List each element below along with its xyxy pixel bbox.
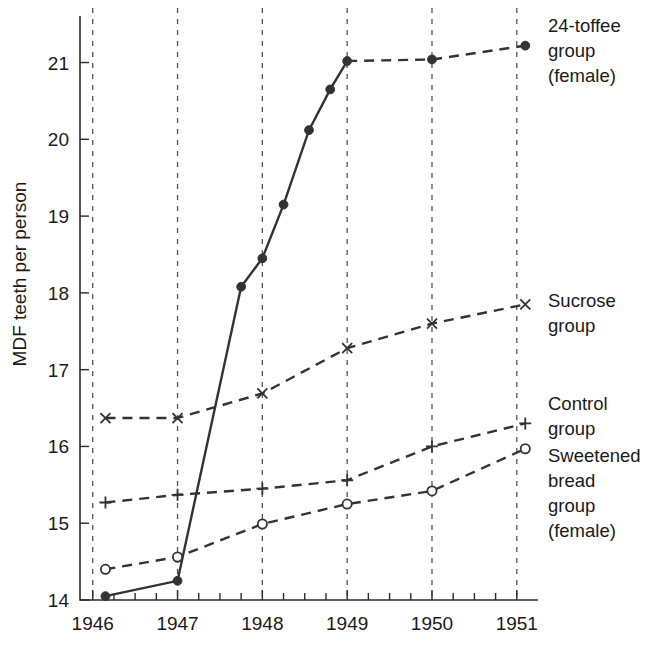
data-point-marker xyxy=(428,55,437,64)
y-axis-title-group: MDF teeth per person xyxy=(9,182,30,367)
y-tick-label-19: 19 xyxy=(48,206,69,227)
data-point-marker xyxy=(305,126,314,135)
data-point-marker xyxy=(521,444,530,453)
data-point-marker xyxy=(427,486,436,495)
legend-label-line: (female) xyxy=(548,520,616,541)
legend-label-line: group xyxy=(548,418,595,439)
data-point-marker xyxy=(99,496,111,508)
y-tick-label-14: 14 xyxy=(48,590,70,611)
data-point-marker xyxy=(343,57,352,66)
data-point-marker xyxy=(256,483,268,495)
x-tick-label-1949: 1949 xyxy=(326,613,368,634)
legend-entry-3: Sweetenedbreadgroup(female) xyxy=(548,445,641,541)
data-point-marker xyxy=(173,552,182,561)
data-point-marker xyxy=(520,299,530,309)
y-tick-label-21: 21 xyxy=(48,53,69,74)
data-point-marker xyxy=(173,576,182,585)
legend-label-line: group xyxy=(548,40,595,61)
legend-entry-2: Controlgroup xyxy=(548,393,608,439)
tick-marks-group xyxy=(80,63,517,600)
data-point-marker xyxy=(279,200,288,209)
data-point-marker xyxy=(521,41,530,50)
data-series-group xyxy=(99,41,531,600)
gridlines-group xyxy=(93,8,517,600)
series-line-solid-0 xyxy=(105,61,347,596)
x-tick-label-1951: 1951 xyxy=(496,613,538,634)
data-point-marker xyxy=(341,474,353,486)
x-tick-label-1946: 1946 xyxy=(72,613,114,634)
legend-label-line: bread xyxy=(548,470,595,491)
data-point-marker xyxy=(426,440,438,452)
data-point-marker xyxy=(519,417,531,429)
legend-label-line: group xyxy=(548,495,595,516)
data-point-marker xyxy=(258,254,267,263)
legend-label-line: (female) xyxy=(548,65,616,86)
y-tick-label-20: 20 xyxy=(48,129,69,150)
data-point-marker xyxy=(101,565,110,574)
line-chart: 1415161718192021194619471948194919501951… xyxy=(0,0,659,646)
x-tick-label-1950: 1950 xyxy=(411,613,453,634)
series-2 xyxy=(99,417,531,508)
legend-group: 24-toffeegroup(female)SucrosegroupContro… xyxy=(548,15,641,541)
chart-page: 1415161718192021194619471948194919501951… xyxy=(0,0,659,646)
series-0 xyxy=(101,41,530,600)
series-line-dashed-3 xyxy=(105,449,525,570)
legend-entry-0: 24-toffeegroup(female) xyxy=(548,15,621,86)
data-point-marker xyxy=(343,499,352,508)
series-line-dashed-2 xyxy=(105,423,525,502)
y-tick-label-16: 16 xyxy=(48,436,69,457)
y-tick-label-18: 18 xyxy=(48,283,69,304)
legend-label-line: Sucrose xyxy=(548,290,616,311)
y-axis-title: MDF teeth per person xyxy=(9,182,30,367)
y-tick-label-15: 15 xyxy=(48,513,69,534)
data-point-marker xyxy=(326,85,335,94)
legend-label-line: Control xyxy=(548,393,608,414)
tick-labels-group: 1415161718192021194619471948194919501951 xyxy=(48,53,538,634)
series-3 xyxy=(101,444,530,574)
data-point-marker xyxy=(172,489,184,501)
legend-label-line: 24-toffee xyxy=(548,15,621,36)
legend-label-line: Sweetened xyxy=(548,445,641,466)
data-point-marker xyxy=(258,519,267,528)
x-tick-label-1948: 1948 xyxy=(241,613,283,634)
legend-entry-1: Sucrosegroup xyxy=(548,290,616,336)
x-tick-label-1947: 1947 xyxy=(156,613,198,634)
series-line-dashed-1 xyxy=(105,304,525,418)
data-point-marker xyxy=(101,592,110,601)
data-point-marker xyxy=(237,282,246,291)
y-tick-label-17: 17 xyxy=(48,360,69,381)
legend-label-line: group xyxy=(548,315,595,336)
series-1 xyxy=(100,299,530,423)
